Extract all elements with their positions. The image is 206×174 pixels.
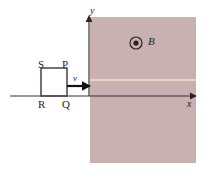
field-direction-dot-icon [133, 40, 138, 45]
loop-vertex-label-s: S [38, 59, 44, 70]
diagram-canvas [0, 0, 206, 174]
magnetic-field-label: B [148, 36, 155, 47]
y-axis-label: y [90, 6, 94, 16]
physics-diagram: S P Q R y x B v [0, 0, 206, 174]
velocity-arrowhead [82, 81, 91, 91]
loop-vertex-label-p: P [62, 59, 68, 70]
field-region-texture [90, 17, 196, 163]
loop-vertex-label-r: R [38, 99, 45, 110]
x-axis-label: x [187, 99, 191, 109]
loop-vertex-label-q: Q [62, 99, 70, 110]
velocity-label: v [73, 74, 77, 83]
square-loop [41, 68, 67, 96]
